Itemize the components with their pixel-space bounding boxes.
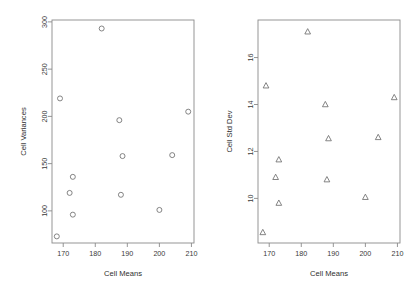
data-point (67, 190, 72, 195)
data-point (324, 177, 330, 182)
data-point (58, 96, 63, 101)
x-axis-tick-label: 170 (263, 249, 275, 258)
y-axis-tick-label: 14 (246, 101, 255, 109)
data-point (260, 229, 266, 234)
x-axis-tick-label: 210 (391, 249, 403, 258)
x-axis-tick-label: 200 (359, 249, 371, 258)
data-point (363, 194, 369, 199)
x-axis-tick-label: 170 (57, 249, 69, 258)
y-axis-tick-label: 150 (40, 158, 49, 170)
plot-frame (52, 20, 194, 243)
data-point (186, 109, 191, 114)
x-axis-tick-label: 180 (295, 249, 307, 258)
x-axis-tick-label: 210 (185, 249, 197, 258)
x-axis-tick-label: 190 (327, 249, 339, 258)
data-point (99, 26, 104, 31)
y-axis-label: Cell Std Dev (225, 110, 234, 152)
x-axis-tick-label: 190 (121, 249, 133, 258)
data-point (54, 234, 59, 239)
data-point (326, 135, 332, 140)
data-point (157, 207, 162, 212)
scatter-panel-cell-std-dev: 17018019020021010121416Cell MeansCell St… (206, 0, 412, 301)
scatter-panel-cell-variances: 170180190200210100150200250300Cell Means… (0, 0, 206, 301)
x-axis-tick-label: 200 (153, 249, 165, 258)
y-axis-label: Cell Variances (19, 107, 28, 156)
data-point (391, 94, 397, 99)
data-point-group (54, 26, 190, 239)
y-axis-tick-label: 12 (246, 147, 255, 155)
y-axis-tick-label: 200 (40, 110, 49, 122)
data-point (375, 134, 381, 139)
x-axis-label: Cell Means (104, 269, 142, 278)
data-point (70, 174, 75, 179)
figure-root: 170180190200210100150200250300Cell Means… (0, 0, 412, 301)
data-point (276, 157, 282, 162)
data-point (305, 29, 311, 34)
data-point (118, 192, 123, 197)
x-axis-tick-label: 180 (89, 249, 101, 258)
data-point (322, 101, 328, 106)
y-axis-tick-label: 10 (246, 194, 255, 202)
data-point-group (260, 29, 397, 235)
plot-frame (258, 20, 400, 243)
data-point (70, 212, 75, 217)
data-point (117, 118, 122, 123)
y-axis-tick-label: 300 (40, 16, 49, 28)
y-axis-tick-label: 250 (40, 63, 49, 75)
data-point (120, 154, 125, 159)
x-axis-label: Cell Means (310, 269, 348, 278)
plot-area-left: 170180190200210100150200250300Cell Means… (0, 0, 206, 301)
data-point (263, 83, 269, 88)
y-axis-tick-label: 100 (40, 205, 49, 217)
data-point (276, 200, 282, 205)
plot-area-right: 17018019020021010121416Cell MeansCell St… (206, 0, 412, 301)
data-point (273, 174, 279, 179)
data-point (170, 153, 175, 158)
y-axis-tick-label: 16 (246, 54, 255, 62)
